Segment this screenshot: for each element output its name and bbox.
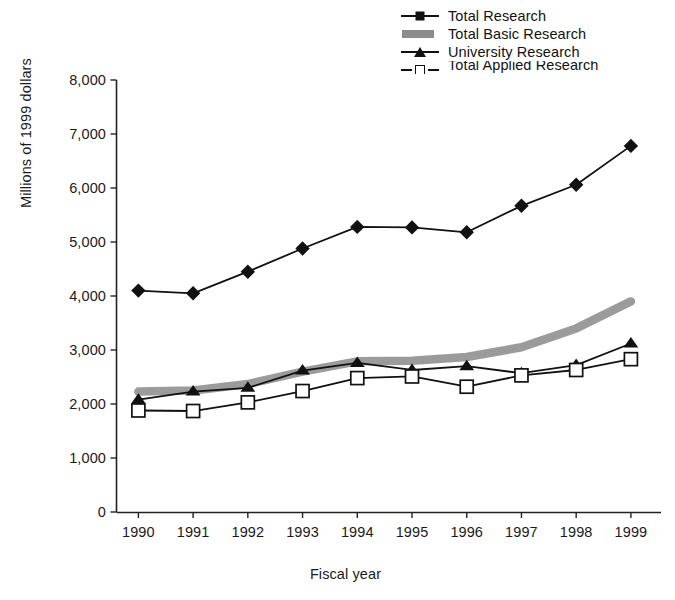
x-tick-label: 1992: [218, 524, 278, 540]
x-axis-title-text: Fiscal year: [310, 566, 381, 582]
x-tick-label: 1999: [601, 524, 661, 540]
x-tick-label: 1998: [546, 524, 606, 540]
x-tick-label: 1997: [491, 524, 551, 540]
x-tick-label: 1995: [382, 524, 442, 540]
y-axis-title: Millions of 1999 dollars: [18, 58, 34, 208]
x-tick-label: 1990: [108, 524, 168, 540]
x-axis-tick-labels: 1990199119921993199419951996199719981999: [0, 0, 675, 600]
x-tick-label: 1993: [273, 524, 333, 540]
x-tick-label: 1994: [327, 524, 387, 540]
x-tick-label: 1996: [437, 524, 497, 540]
line-chart-figure: Total Research Total Basic Research Univ…: [0, 0, 675, 600]
x-tick-label: 1991: [163, 524, 223, 540]
x-axis-title: Fiscal year: [0, 566, 675, 582]
